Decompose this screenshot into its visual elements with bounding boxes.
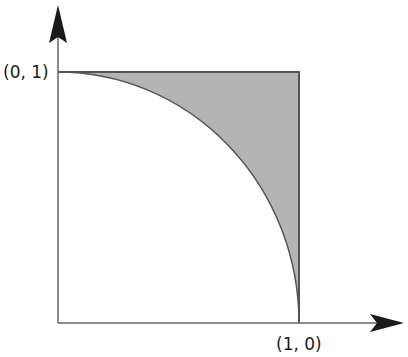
label-point-1-0: (1, 0) bbox=[276, 334, 322, 354]
diagram-canvas: (0, 1) (1, 0) bbox=[0, 0, 408, 357]
shaded-region bbox=[58, 72, 299, 323]
label-point-0-1: (0, 1) bbox=[3, 62, 49, 82]
